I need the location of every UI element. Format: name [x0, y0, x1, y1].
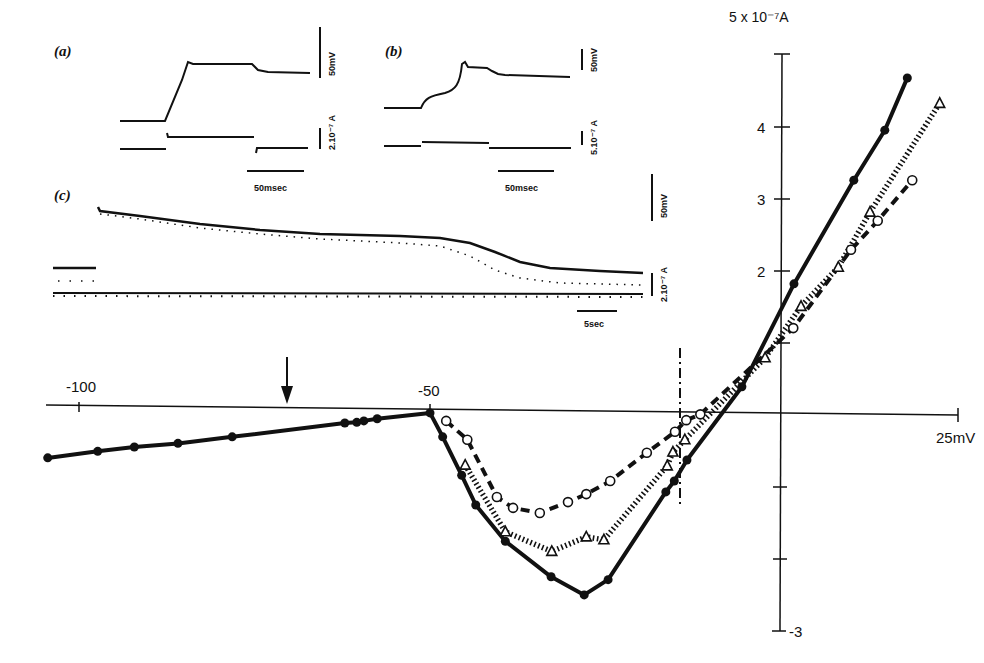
down-arrow-icon — [281, 357, 293, 404]
data-point-filled-circle — [457, 471, 466, 480]
data-point-filled-circle — [903, 73, 912, 82]
data-point-open-circle — [535, 508, 544, 517]
data-point-filled-circle — [130, 442, 139, 451]
data-point-open-circle — [563, 498, 572, 507]
data-point-filled-circle — [789, 279, 798, 288]
data-point-open-circle — [442, 416, 451, 425]
current-ticks-c — [53, 296, 643, 297]
data-point-filled-circle — [501, 537, 510, 546]
series-line-solid — [48, 78, 908, 595]
scale-label-voltage-b: 50mV — [589, 48, 599, 72]
data-point-filled-circle — [359, 416, 368, 425]
scale-label-voltage-c: 50mV — [659, 194, 669, 218]
data-point-filled-circle — [547, 572, 556, 581]
data-point-open-circle — [642, 448, 651, 457]
data-point-filled-circle — [471, 500, 480, 509]
voltage-trace-c — [98, 207, 643, 273]
panel-label-b: (b) — [385, 43, 403, 60]
data-point-filled-circle — [438, 432, 447, 441]
x-tick-label-minus100: -100 — [66, 378, 96, 395]
scale-label-time-b: 50msec — [505, 183, 538, 193]
data-point-filled-circle — [340, 419, 349, 428]
data-point-open-circle — [582, 490, 591, 499]
data-point-open-circle — [846, 245, 855, 254]
y-axis-label: 5 x 10⁻⁷A — [729, 9, 789, 25]
scale-label-time-a: 50msec — [254, 183, 287, 193]
current-trace-c — [53, 293, 643, 294]
data-point-open-triangle — [547, 546, 557, 556]
series-layer — [43, 73, 944, 599]
data-point-filled-circle — [373, 414, 382, 423]
scale-label-current-c: 2.10⁻⁷ A — [659, 267, 669, 302]
data-point-open-circle — [696, 410, 705, 419]
data-point-open-circle — [789, 324, 798, 333]
data-point-open-circle — [670, 427, 679, 436]
figure-canvas: (a) 50mV 2.10⁻⁷ A 50msec (b) 50mV 5.10⁻⁷… — [0, 0, 984, 663]
data-point-filled-circle — [849, 176, 858, 185]
data-point-filled-circle — [880, 126, 889, 135]
panel-label-c: (c) — [54, 187, 71, 204]
x-axis — [46, 405, 958, 415]
data-point-open-circle — [682, 416, 691, 425]
data-point-filled-circle — [426, 408, 435, 417]
voltage-trace-b — [384, 62, 570, 108]
data-point-filled-circle — [228, 432, 237, 441]
scale-label-time-c: 5sec — [584, 319, 604, 329]
scale-label-current-b: 5.10⁻⁷ A — [589, 120, 599, 155]
data-point-filled-circle — [173, 439, 182, 448]
data-point-open-triangle — [935, 98, 945, 108]
data-point-open-circle — [463, 435, 472, 444]
data-point-open-circle — [908, 176, 917, 185]
data-point-open-triangle — [460, 460, 470, 470]
inset-c: (c) 50mV 2.10⁻⁷ A 5sec — [53, 174, 669, 329]
data-point-filled-circle — [682, 456, 691, 465]
x-axis-label: 25mV — [936, 429, 975, 446]
data-point-open-circle — [873, 216, 882, 225]
scale-label-voltage-a: 50mV — [327, 52, 337, 76]
data-point-filled-circle — [580, 590, 589, 599]
scale-label-current-a: 2.10⁻⁷ A — [327, 115, 337, 150]
y-tick-label-minus3: -3 — [789, 623, 802, 640]
data-point-open-circle — [492, 493, 501, 502]
data-point-open-circle — [606, 477, 615, 486]
data-point-filled-circle — [737, 382, 746, 391]
dotted-trace-c — [100, 214, 643, 285]
data-point-open-circle — [509, 503, 518, 512]
current-trace-a — [120, 133, 308, 153]
axes — [46, 54, 958, 631]
data-point-filled-circle — [93, 447, 102, 456]
data-point-filled-circle — [604, 575, 613, 584]
y-tick-label-3: 3 — [757, 191, 765, 208]
y-tick-label-2: 2 — [757, 263, 765, 280]
data-point-filled-circle — [43, 453, 52, 462]
panel-label-a: (a) — [54, 43, 72, 60]
data-point-filled-circle — [661, 487, 670, 496]
current-trace-b — [384, 142, 571, 148]
data-point-filled-circle — [670, 477, 679, 486]
data-point-open-triangle — [599, 534, 609, 544]
inset-a: (a) 50mV 2.10⁻⁷ A 50msec — [54, 27, 337, 193]
y-tick-label-4: 4 — [757, 119, 765, 136]
voltage-trace-a — [120, 62, 310, 121]
inset-b: (b) 50mV 5.10⁻⁷ A 50msec — [384, 43, 599, 193]
x-tick-label-minus50: -50 — [418, 382, 440, 399]
